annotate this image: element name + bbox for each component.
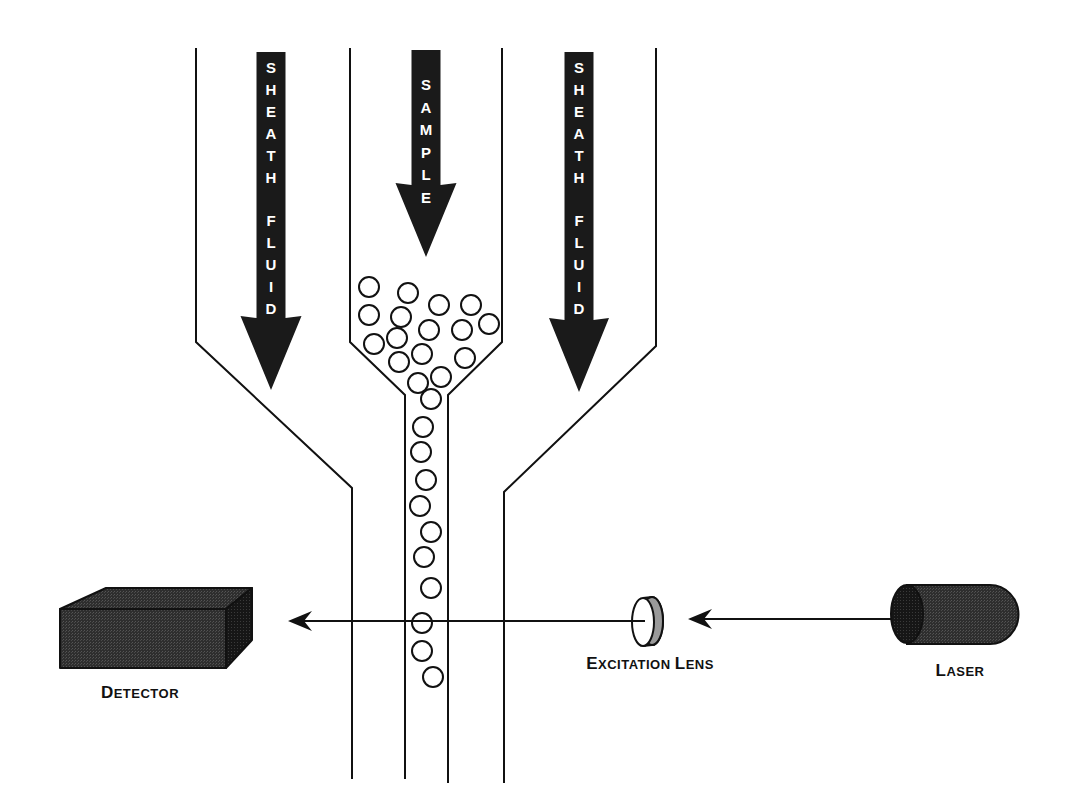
arrow-letter: U xyxy=(564,256,594,273)
arrow-letter: S xyxy=(256,59,286,76)
particle xyxy=(455,348,475,368)
arrow-letter: D xyxy=(564,300,594,317)
arrow-letter: A xyxy=(411,99,441,116)
arrow-letter: L xyxy=(411,166,441,183)
laser-icon xyxy=(891,585,1018,644)
particle xyxy=(387,328,407,348)
arrow-letter: F xyxy=(564,212,594,229)
arrow-letter: E xyxy=(411,189,441,206)
particle xyxy=(364,334,384,354)
arrow-letter: L xyxy=(564,234,594,251)
detector-top-face xyxy=(60,588,252,609)
arrow-letter: E xyxy=(564,103,594,120)
particle xyxy=(412,641,432,661)
particle xyxy=(421,389,441,409)
laser-label: LASER xyxy=(935,661,984,681)
arrow-letter: T xyxy=(256,147,286,164)
particle xyxy=(461,295,481,315)
particle xyxy=(414,547,434,567)
particle xyxy=(423,667,443,687)
particle xyxy=(391,307,411,327)
particle xyxy=(452,320,472,340)
arrow-letter: M xyxy=(411,121,441,138)
arrow-letter: P xyxy=(411,144,441,161)
particles xyxy=(359,277,499,687)
beam-laser-to-lens xyxy=(688,609,891,629)
excitation-lens-label: EXCITATION LENS xyxy=(586,654,714,674)
arrow-letter: A xyxy=(256,125,286,142)
arrow-letter: U xyxy=(256,256,286,273)
arrow-letter: D xyxy=(256,300,286,317)
particle xyxy=(479,314,499,334)
particle xyxy=(419,320,439,340)
particle xyxy=(389,352,409,372)
sample-wall-left xyxy=(350,48,405,779)
sample-wall-right xyxy=(448,48,502,783)
particle xyxy=(416,470,436,490)
particle xyxy=(398,283,418,303)
arrow-letter: H xyxy=(256,81,286,98)
arrow-letter: H xyxy=(564,169,594,186)
arrow-letter: F xyxy=(256,212,286,229)
arrow-letter: H xyxy=(256,169,286,186)
particle xyxy=(421,522,441,542)
arrow-letter: S xyxy=(564,59,594,76)
arrow-letter: T xyxy=(564,147,594,164)
arrow-letter: A xyxy=(564,125,594,142)
particle xyxy=(359,277,379,297)
arrow-letter: E xyxy=(256,103,286,120)
arrow-letter: L xyxy=(256,234,286,251)
detector-front-face xyxy=(60,609,226,668)
particle xyxy=(410,496,430,516)
particle xyxy=(412,613,432,633)
particle xyxy=(359,305,379,325)
particle xyxy=(412,344,432,364)
particle xyxy=(421,578,441,598)
excitation-lens-icon xyxy=(630,597,663,646)
detector-icon xyxy=(60,588,252,668)
detector-label: DETECTOR xyxy=(101,683,179,703)
arrow-letter: I xyxy=(564,278,594,295)
particle xyxy=(411,442,431,462)
beam-lens-to-detector xyxy=(288,611,645,631)
particle xyxy=(429,295,449,315)
particle xyxy=(431,367,451,387)
arrow-letter: S xyxy=(411,76,441,93)
particle xyxy=(413,417,433,437)
arrow-letter: H xyxy=(564,81,594,98)
arrow-letter: I xyxy=(256,278,286,295)
